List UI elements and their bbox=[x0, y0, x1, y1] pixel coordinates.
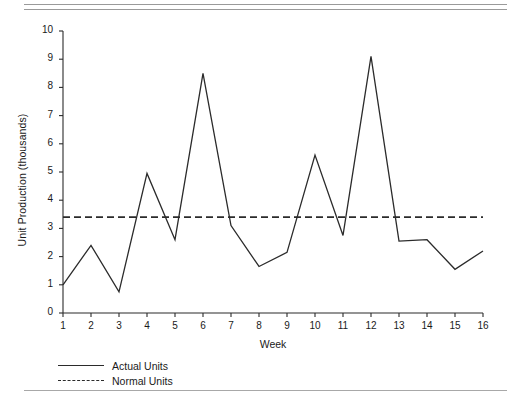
legend-item-actual-units: Actual Units bbox=[58, 358, 173, 373]
chart-legend: Actual Units Normal Units bbox=[58, 358, 173, 388]
y-axis-ticks bbox=[59, 31, 63, 313]
line-chart-figure: Unit Production (thousands) Week 0123456… bbox=[0, 14, 517, 386]
legend-label-normal-units: Normal Units bbox=[112, 375, 173, 387]
top-rule-lower bbox=[24, 9, 507, 10]
x-axis-ticks bbox=[63, 313, 483, 317]
legend-key-dashed-line-icon bbox=[58, 376, 104, 386]
legend-item-normal-units: Normal Units bbox=[58, 373, 173, 388]
chart-page: Unit Production (thousands) Week 0123456… bbox=[0, 0, 517, 406]
plot-area bbox=[0, 14, 517, 386]
top-rule-upper bbox=[24, 4, 507, 5]
bottom-rule bbox=[24, 390, 507, 391]
legend-key-solid-line-icon bbox=[58, 361, 104, 371]
axis-lines bbox=[63, 31, 483, 313]
legend-label-actual-units: Actual Units bbox=[112, 360, 168, 372]
series-line-actual-units bbox=[63, 56, 483, 291]
